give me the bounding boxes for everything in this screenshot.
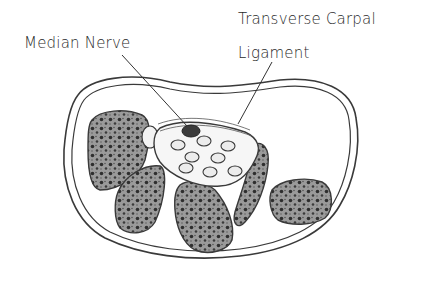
- bone-center: [175, 181, 233, 252]
- median-nerve: [182, 125, 200, 137]
- ligament-leader: [238, 62, 272, 124]
- median-nerve-label: Median Nerve: [24, 34, 130, 52]
- ligament-label-line2: Ligament: [238, 44, 310, 62]
- bone-far-right: [270, 179, 331, 224]
- ligament-label-line1: Transverse Carpal: [238, 10, 376, 28]
